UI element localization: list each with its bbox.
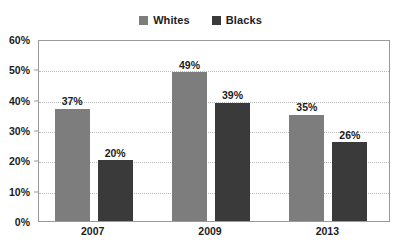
- y-tick-label: 50%: [9, 65, 30, 76]
- y-tick-label: 30%: [9, 126, 30, 137]
- bar-value-label: 35%: [296, 102, 317, 113]
- bar-whites-2009[interactable]: 49%: [172, 72, 207, 221]
- legend-entry-blacks[interactable]: Blacks: [212, 15, 262, 26]
- bar-value-label: 37%: [62, 96, 83, 107]
- x-axis: 200720092013: [38, 224, 390, 244]
- legend-swatch-blacks: [212, 16, 221, 25]
- bar-blacks-2013[interactable]: 26%: [332, 142, 367, 221]
- bars-layer: 37%20%49%39%35%26%: [39, 41, 389, 221]
- bar-blacks-2009[interactable]: 39%: [215, 103, 250, 221]
- chart-legend: Whites Blacks: [0, 12, 401, 28]
- legend-entry-whites[interactable]: Whites: [139, 15, 190, 26]
- bar-value-label: 49%: [179, 60, 200, 71]
- legend-label-whites: Whites: [153, 15, 190, 26]
- y-tick-label: 40%: [9, 95, 30, 106]
- bar-chart: Whites Blacks 0%10%20%30%40%50%60% 37%20…: [0, 0, 401, 247]
- bar-value-label: 20%: [105, 148, 126, 159]
- plot-area: 37%20%49%39%35%26%: [38, 40, 390, 222]
- y-tick-label: 20%: [9, 156, 30, 167]
- y-tick-label: 0%: [15, 217, 30, 228]
- legend-label-blacks: Blacks: [226, 15, 262, 26]
- legend-swatch-whites: [139, 16, 148, 25]
- y-tick-label: 60%: [9, 35, 30, 46]
- x-tick-label-2009: 2009: [198, 226, 221, 237]
- bar-whites-2007[interactable]: 37%: [55, 109, 90, 221]
- bar-blacks-2007[interactable]: 20%: [98, 160, 133, 221]
- x-tick-label-2013: 2013: [316, 226, 339, 237]
- bar-value-label: 39%: [222, 90, 243, 101]
- x-tick-label-2007: 2007: [81, 226, 104, 237]
- y-tick-label: 10%: [9, 186, 30, 197]
- y-axis: 0%10%20%30%40%50%60%: [0, 40, 34, 222]
- bar-value-label: 26%: [339, 130, 360, 141]
- bar-whites-2013[interactable]: 35%: [289, 115, 324, 221]
